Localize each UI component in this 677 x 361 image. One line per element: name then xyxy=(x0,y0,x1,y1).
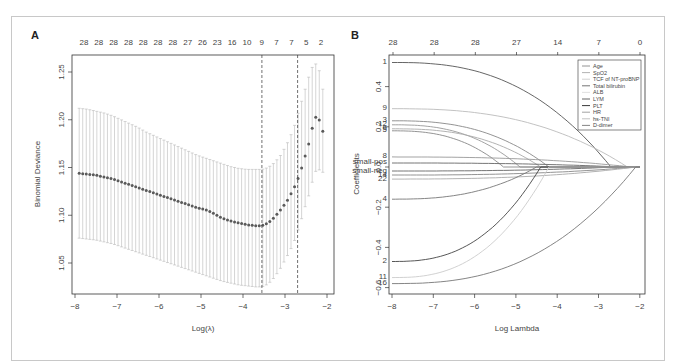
y-tick-label: 1.05 xyxy=(57,255,66,271)
y-tick-label: −0.4 xyxy=(374,239,383,255)
legend-entry: Total bilirubin xyxy=(593,83,625,89)
top-axis-label: 16 xyxy=(228,38,237,47)
top-axis-label: 27 xyxy=(183,38,192,47)
top-axis-label: 7 xyxy=(597,38,602,47)
top-axis-label: 9 xyxy=(260,38,265,47)
panel-b-x-axis: −8−7−6−5−4−3−2 xyxy=(387,294,644,311)
coefficient-path xyxy=(392,167,640,284)
top-axis-label: 28 xyxy=(471,38,480,47)
top-axis-label: 28 xyxy=(389,38,398,47)
panel-b-x-axis-title: Log Lambda xyxy=(495,324,540,333)
panel-b-label: B xyxy=(351,29,359,41)
panel-a-y-axis: 1.051.101.151.201.25 xyxy=(57,64,72,271)
top-axis-label: 2 xyxy=(319,38,324,47)
panel-a-y-axis-title: Binomial Deviance xyxy=(33,140,42,207)
top-axis-label: 28 xyxy=(168,38,177,47)
panel-a-cv-plot: A 28282828282828272623161097752 −8−7−6−5… xyxy=(31,29,334,333)
panel-a-x-axis-title: Log(λ) xyxy=(192,324,215,333)
x-tick-label: −7 xyxy=(112,302,122,311)
x-tick-label: −3 xyxy=(594,302,604,311)
x-tick-label: −7 xyxy=(429,302,439,311)
panel-b-legend: AgeSpO2TCF of NT-proBNPTotal bilirubinAL… xyxy=(578,60,641,130)
x-tick-label: −2 xyxy=(322,302,332,311)
top-axis-label: 10 xyxy=(242,38,251,47)
y-tick-label: 1.15 xyxy=(57,159,66,175)
panel-a-label: A xyxy=(31,29,39,41)
x-tick-label: −8 xyxy=(70,302,80,311)
y-tick-label: 1.10 xyxy=(57,207,66,223)
top-axis-label: 28 xyxy=(430,38,439,47)
x-tick-label: −6 xyxy=(470,302,480,311)
panel-a-top-axis: 28282828282828272623161097752 xyxy=(80,38,324,47)
top-axis-label: 7 xyxy=(274,38,279,47)
x-tick-label: −2 xyxy=(635,302,645,311)
legend-entry: ALB xyxy=(593,89,604,95)
legend-entry: D-dimer xyxy=(593,122,613,128)
x-tick-label: −5 xyxy=(511,302,521,311)
coefficient-path xyxy=(392,129,640,167)
legend-entry: HR xyxy=(593,109,601,115)
top-axis-label: 5 xyxy=(304,38,309,47)
top-axis-label: 27 xyxy=(512,38,521,47)
path-index-label: 4 xyxy=(383,194,388,203)
legend-entry: Age xyxy=(593,63,603,69)
path-index-label: 9 xyxy=(383,103,388,112)
coefficient-path xyxy=(392,131,640,167)
path-index-label: 2 xyxy=(383,256,388,265)
panel-b-coef-paths: B 282828271470 19312658small-possmall-ne… xyxy=(351,29,645,333)
top-axis-label: 28 xyxy=(80,38,89,47)
coefficient-path xyxy=(392,167,640,278)
top-axis-label: 14 xyxy=(553,38,562,47)
y-tick-label: 0.0 xyxy=(374,161,383,173)
panel-b-y-axis-title: Coefficients xyxy=(352,153,361,195)
y-tick-label: −0.2 xyxy=(374,199,383,215)
top-axis-label: 28 xyxy=(94,38,103,47)
top-axis-label: 28 xyxy=(124,38,133,47)
coefficient-path xyxy=(392,167,640,199)
y-tick-label: 0.4 xyxy=(374,80,383,92)
legend-box xyxy=(578,60,641,130)
legend-entry: LYM xyxy=(593,96,604,102)
panel-b-top-axis: 282828271470 xyxy=(389,38,643,55)
path-index-label: 1 xyxy=(383,57,388,66)
y-tick-label: 1.20 xyxy=(57,111,66,127)
legend-entry: PLT xyxy=(593,103,603,109)
x-tick-label: −3 xyxy=(280,302,290,311)
legend-entry: hs-TNI xyxy=(593,116,610,122)
top-axis-label: 28 xyxy=(154,38,163,47)
path-index-label: 22 xyxy=(378,174,387,183)
y-tick-label: −0.6 xyxy=(374,279,383,295)
top-axis-label: 23 xyxy=(213,38,222,47)
y-tick-label: 1.25 xyxy=(57,64,66,80)
panel-a-x-axis: −8−7−6−5−4−3−2 xyxy=(70,294,332,311)
x-tick-label: −4 xyxy=(238,302,248,311)
legend-entry: SpO2 xyxy=(593,70,607,76)
x-tick-label: −4 xyxy=(553,302,563,311)
top-axis-label: 0 xyxy=(638,38,643,47)
coefficient-path xyxy=(392,167,640,262)
top-axis-label: 7 xyxy=(289,38,294,47)
top-axis-label: 28 xyxy=(139,38,148,47)
x-tick-label: −8 xyxy=(387,302,397,311)
legend-entry: TCF of NT-proBNP xyxy=(593,76,640,82)
y-tick-label: 0.2 xyxy=(374,121,383,133)
x-tick-label: −6 xyxy=(154,302,164,311)
coefficient-path xyxy=(392,163,640,167)
panel-a-lambda-lines xyxy=(262,55,298,294)
top-axis-label: 28 xyxy=(109,38,118,47)
x-tick-label: −5 xyxy=(196,302,206,311)
coefficient-path xyxy=(392,157,640,167)
top-axis-label: 26 xyxy=(198,38,207,47)
panel-a-error-bars xyxy=(78,64,325,287)
